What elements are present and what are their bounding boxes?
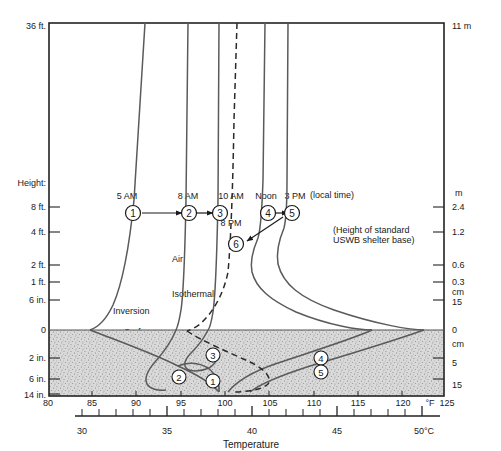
- curve-3pm: [277, 23, 424, 330]
- marker-text-4-soil: 4: [318, 353, 323, 364]
- curve-8am: [176, 23, 188, 330]
- marker-text-5-soil: 5: [318, 367, 323, 378]
- marker-text-2-soil: 2: [176, 372, 181, 383]
- marker-text-5: 5: [289, 208, 295, 219]
- curve-10am: [208, 23, 219, 330]
- marker-text-3: 3: [217, 208, 223, 219]
- curve-5am: [90, 23, 145, 330]
- marker-text-2: 2: [186, 208, 192, 219]
- marker-text-4: 4: [265, 208, 271, 219]
- figure-root: 36 ft. Height: 8 ft. 4 ft. 2 ft. 1 ft. 6…: [0, 0, 501, 451]
- x-axis-c-minor-ticks: [82, 409, 405, 416]
- curve-8pm: [187, 23, 237, 331]
- marker-text-1-soil: 1: [210, 376, 215, 387]
- marker-text-6: 6: [233, 239, 239, 250]
- marker-text-1: 1: [130, 208, 136, 219]
- x-axis-c-major-ticks: [167, 406, 422, 416]
- curve-noon: [251, 23, 372, 330]
- soil-region: [49, 330, 444, 396]
- marker-text-3-soil: 3: [210, 350, 215, 361]
- plot-canvas: 1 2 3 4 5 6 2 1 3 4 5: [0, 0, 501, 451]
